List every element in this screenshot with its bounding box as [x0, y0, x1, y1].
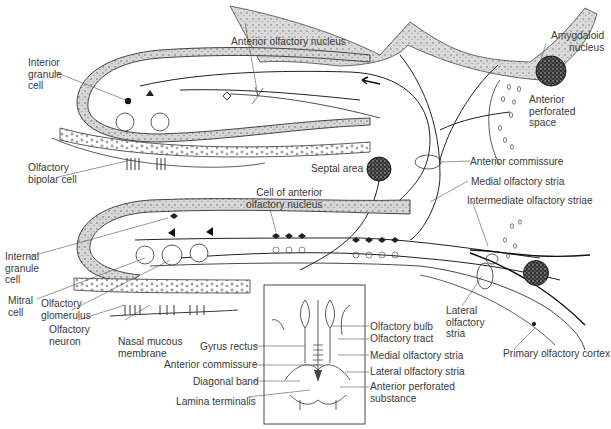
olfactory-pathway-diagram: Anterior olfactory nucleus Interior gran… — [0, 0, 611, 429]
label-intermediate-olfactory-striae: Intermediate olfactory striae — [467, 195, 593, 207]
label-interior-granule-cell: Interior granule cell — [28, 57, 62, 92]
label-medial-olfactory-stria: Medial olfactory stria — [471, 176, 564, 188]
inset-label-diagonal-band: Diagonal band — [193, 376, 259, 388]
label-olfactory-bipolar-cell: Olfactory bipolar cell — [28, 162, 77, 185]
label-mitral-cell: Mitral cell — [8, 295, 33, 318]
inset-label-anterior-perforated-substance: Anterior perforated substance — [370, 381, 455, 404]
label-amygdaloid-nucleus: Amygdaloid nucleus — [551, 30, 604, 53]
diagram-artwork — [0, 0, 611, 429]
inset-label-olfactory-tract: Olfactory tract — [370, 333, 433, 345]
inset-label-medial-olfactory-stria: Medial olfactory stria — [370, 350, 463, 362]
inset-label-olfactory-bulb: Olfactory bulb — [370, 321, 433, 333]
label-olfactory-glomerulus: Olfactory glomerulus — [41, 298, 91, 321]
label-olfactory-neuron: Olfactory neuron — [49, 324, 90, 347]
label-cell-of-anterior-olfactory-nucleus: Cell of anterior olfactory nucleus — [246, 187, 322, 210]
inset-label-anterior-commissure: Anterior commissure — [164, 359, 257, 371]
inset-box — [264, 285, 365, 424]
label-internal-granule-cell: Internal granule cell — [5, 251, 39, 286]
label-lateral-olfactory-stria: Lateral olfactory stria — [446, 305, 485, 340]
label-anterior-olfactory-nucleus: Anterior olfactory nucleus — [231, 36, 346, 48]
arrow-left-icon — [362, 77, 380, 84]
inset-label-lateral-olfactory-stria: Lateral olfactory stria — [370, 366, 465, 378]
lower-olfactory-bulb — [77, 199, 410, 282]
label-septal-area: Septal area — [311, 163, 363, 175]
label-nasal-mucous-membrane: Nasal mucous membrane — [118, 336, 183, 359]
label-anterior-commissure: Anterior commissure — [470, 156, 563, 168]
label-primary-olfactory-cortex: Primary olfactory cortex — [503, 348, 610, 360]
inset-label-gyrus-rectus: Gyrus rectus — [200, 341, 258, 353]
amygdaloid-nucleus-shape — [536, 56, 566, 86]
inset-label-lamina-terminalis: Lamina terminalis — [176, 396, 256, 408]
lower-cribriform-plate — [74, 278, 250, 293]
label-anterior-perforated-space: Anterior perforated space — [529, 94, 575, 129]
